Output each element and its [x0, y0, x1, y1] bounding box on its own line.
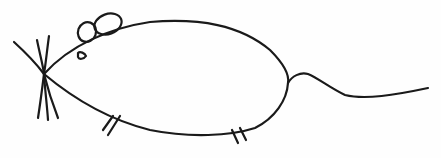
mouse-drawing	[0, 0, 441, 158]
body-lower-outline	[44, 74, 288, 135]
front-legs	[103, 116, 120, 135]
whiskers	[14, 36, 58, 120]
eye	[78, 52, 86, 59]
mouse-illustration	[0, 0, 441, 158]
tail	[288, 73, 428, 97]
